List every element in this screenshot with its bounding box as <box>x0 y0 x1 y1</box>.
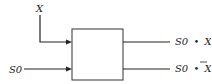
output-s0-and-x-label: S0 • X <box>175 36 211 47</box>
output-1-prefix: S0 <box>175 36 189 47</box>
input-x-arrowhead-icon <box>66 40 72 45</box>
input-x-label: X <box>35 3 44 14</box>
output-1-var: X <box>204 36 212 47</box>
input-s0-label: S0 <box>9 64 23 75</box>
and-dot-icon: • <box>193 36 199 47</box>
input-x-wire <box>40 15 68 42</box>
logic-block <box>72 29 123 80</box>
output-2-var: X <box>204 63 212 74</box>
and-dot-icon: • <box>193 63 199 74</box>
output-s0-and-not-x-label: S0 • X <box>175 63 211 74</box>
output-2-prefix: S0 <box>175 63 189 74</box>
logic-diagram: X S0 S0 • X S0 • X <box>0 0 211 84</box>
input-s0-arrowhead-icon <box>66 67 72 72</box>
